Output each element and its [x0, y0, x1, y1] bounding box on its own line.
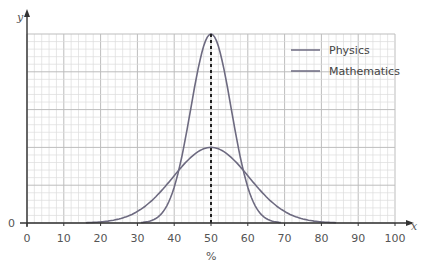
x-tick-label: 30 [130, 232, 144, 245]
x-tick-label: 70 [278, 232, 292, 245]
legend: Physics Mathematics [276, 34, 400, 78]
y-axis-arrow-icon [24, 9, 30, 17]
x-tick-label: 40 [167, 232, 181, 245]
x-tick-label: 100 [385, 232, 406, 245]
x-tick-label: 50 [204, 232, 218, 245]
x-tick-label: 60 [241, 232, 255, 245]
x-tick-label: 0 [24, 232, 31, 245]
x-axis-unit-label: % [206, 250, 216, 263]
x-tick-label: 80 [314, 232, 328, 245]
y-origin-label: 0 [8, 217, 15, 230]
x-tick-labels: 0102030405060708090100 [24, 223, 406, 245]
y-axis-label: y [16, 11, 24, 24]
normal-distribution-chart: 0102030405060708090100 y x 0 % Physics M… [0, 0, 434, 269]
x-tick-label: 10 [57, 232, 71, 245]
legend-label-mathematics: Mathematics [329, 65, 400, 78]
x-tick-label: 20 [94, 232, 108, 245]
x-axis-symbol: x [411, 220, 418, 233]
legend-label-physics: Physics [329, 44, 370, 57]
x-tick-label: 90 [351, 232, 365, 245]
